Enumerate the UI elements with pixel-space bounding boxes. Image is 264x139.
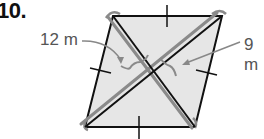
parallelogram-diagram: [0, 0, 264, 139]
